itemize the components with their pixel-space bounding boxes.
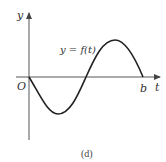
figure-caption: (d) xyxy=(81,148,93,160)
y-axis-label: y xyxy=(16,9,24,22)
t-axis-label: t xyxy=(155,81,160,94)
function-graph: y t O b y = f(t) (d) xyxy=(0,0,166,162)
curve-label: y = f(t) xyxy=(59,44,96,55)
origin-label: O xyxy=(17,80,26,93)
end-point-label: b xyxy=(140,82,147,95)
